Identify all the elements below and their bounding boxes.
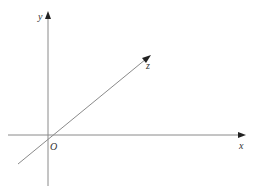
x-axis-arrow-icon xyxy=(238,132,246,138)
z-axis xyxy=(18,55,151,164)
y-axis xyxy=(45,11,51,186)
y-axis-label: y xyxy=(37,11,43,22)
x-axis xyxy=(8,132,246,138)
coordinate-axes-diagram: y z x O xyxy=(0,0,257,196)
z-axis-label: z xyxy=(145,60,150,71)
y-axis-arrow-icon xyxy=(45,11,51,19)
origin-label: O xyxy=(50,141,57,152)
x-axis-label: x xyxy=(238,140,244,151)
